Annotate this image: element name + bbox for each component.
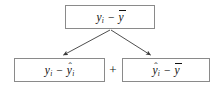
expression-total-deviation: yi − y [96,10,123,24]
bar-accent-icon [119,10,126,12]
bar-accent-icon [175,63,182,65]
hat-accent-icon: ˆ [152,62,159,72]
node-explained-deviation: ˆyi − y [122,58,210,82]
subscript-i: i [50,69,52,78]
term-y-i: yi [45,63,53,77]
plus-operator: + [106,58,120,82]
expression-residual-deviation: yi − ˆyi [45,63,75,77]
minus-operator: − [160,65,175,77]
subscript-i: i [102,16,104,25]
minus-operator: − [52,65,67,77]
symbol-y: y [96,11,101,23]
node-total-deviation: yi − y [65,5,155,29]
term-y-bar: y [174,63,179,77]
diagram-canvas: yi − y yi − ˆyi + ˆyi − y [0,0,220,86]
term-y-hat-i: ˆyi [152,63,160,77]
term-y-hat-i: ˆyi [67,63,75,77]
node-residual-deviation: yi − ˆyi [14,58,105,82]
minus-operator: − [104,12,119,24]
expression-explained-deviation: ˆyi − y [152,63,179,77]
arrow-to-explained [111,30,151,55]
symbol-y: y [174,64,179,76]
hat-accent-icon: ˆ [67,62,74,72]
symbol-y: y [118,11,123,23]
term-y-i: yi [96,10,104,24]
term-y-bar: y [118,10,123,24]
arrow-to-residual [64,30,111,55]
